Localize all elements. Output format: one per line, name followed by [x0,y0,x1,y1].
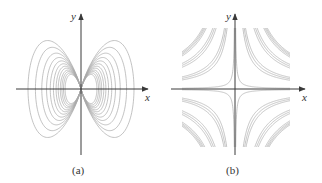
hyperbola [155,106,218,168]
x-axis-label-b: x [301,91,307,103]
hyperbola [259,9,315,65]
panel-a: x y (a) [16,10,150,177]
hyperbola [258,112,315,168]
hyperbola [155,97,227,168]
panel-b: x y (b) [155,9,315,177]
hyperbola [155,10,212,66]
hyperbola [155,10,227,81]
hyperbola [155,16,234,88]
caption-a: (a) [72,164,85,177]
x-axis-label-a: x [144,91,150,103]
hyperbola [155,112,212,168]
hyperbola [257,111,315,168]
hyperbola [258,10,315,66]
hyperbola [155,90,234,162]
hyperbola [155,103,220,168]
hyperbola [243,10,315,81]
hyperbola [155,113,211,169]
figure: x y (a) x y (b) [0,0,322,183]
hyperbola [155,10,220,75]
hyperbola [252,106,315,168]
hyperbola [155,10,228,82]
hyperbola [243,97,315,168]
hyperbola [155,114,210,169]
hyperbola [155,10,210,65]
hyperbola [242,10,315,82]
hyperbola [155,111,213,168]
hyperbola [260,10,315,65]
y-axis-label-b: y [225,10,231,22]
hyperbola [257,10,315,67]
hyperbola [259,113,315,169]
hyperbola [236,16,315,88]
hyperbola [155,10,218,72]
hyperbola [242,96,315,168]
hyperbola [155,10,213,67]
hyperbola [250,103,315,168]
hyperbola [155,9,211,65]
y-axis-label-a: y [70,10,76,22]
hyperbola [252,10,315,72]
hyperbola [250,10,315,75]
hyperbola [155,96,228,168]
caption-b: (b) [226,164,239,177]
hyperbola [260,114,315,169]
